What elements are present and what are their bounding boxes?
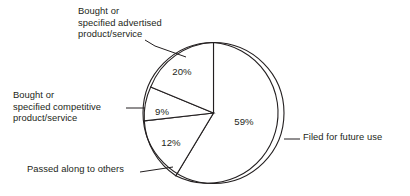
slice-value-competitive: 9% [147, 106, 177, 117]
slice-value-filed: 59% [227, 116, 261, 127]
slice-label-passed: Passed along to others [27, 163, 124, 175]
slice-label-filed: Filed for future use [303, 131, 382, 143]
slice-value-advertised: 20% [164, 66, 200, 77]
slice-label-advertised: Bought or specified advertised product/s… [78, 5, 162, 40]
leader-line-advertised [145, 40, 186, 57]
pie-chart-figure: Bought or specified advertised product/s… [0, 0, 410, 196]
slice-value-passed: 12% [155, 137, 187, 148]
slice-label-competitive: Bought or specified competitive product/… [13, 89, 101, 124]
